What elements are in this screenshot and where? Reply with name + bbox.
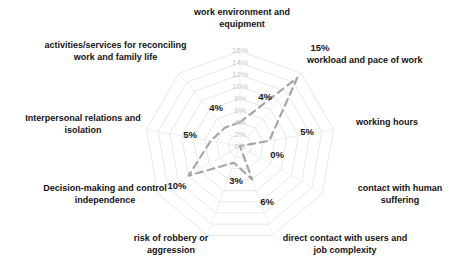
value-label-robbery: 3%	[229, 175, 243, 186]
category-label-human-suffering: contact with human suffering	[340, 183, 460, 206]
category-label-direct-contact: direct contact with users and job comple…	[281, 233, 409, 256]
radial-tick-0: 0%	[234, 142, 246, 151]
radial-tick-16: 16%	[232, 46, 248, 55]
value-label-reconciling: 4%	[209, 102, 223, 113]
value-label-workload: 15%	[310, 42, 330, 53]
radial-tick-2: 2%	[234, 130, 246, 139]
radial-tick-4: 4%	[234, 118, 246, 127]
series-polygon	[189, 78, 298, 180]
category-label-decision-making: Decision-making and control independence	[40, 183, 170, 206]
radial-tick-8: 8%	[234, 94, 246, 103]
radial-tick-14: 14%	[232, 58, 248, 67]
value-label-direct-contact: 6%	[260, 196, 274, 207]
category-label-robbery: risk of robbery or aggression	[114, 233, 228, 256]
value-label-human-suffering: 0%	[270, 149, 284, 160]
category-label-workload: workload and pace of work	[307, 55, 459, 67]
radial-tick-12: 12%	[232, 70, 248, 79]
value-label-decision-making: 10%	[167, 180, 187, 191]
category-label-working-hours: working hours	[356, 117, 460, 129]
category-label-interpersonal: Interpersonal relations and isolation	[8, 113, 158, 136]
value-label-interpersonal: 5%	[183, 129, 197, 140]
value-label-working-hours: 5%	[300, 126, 314, 137]
radial-tick-6: 6%	[234, 106, 246, 115]
category-label-reconciling: activities/services for reconciling work…	[43, 40, 188, 63]
radial-tick-10: 10%	[232, 82, 248, 91]
category-label-work-environment: work environment and equipment	[182, 7, 302, 30]
value-label-work-environment: 4%	[258, 91, 272, 102]
radar-chart: 0% 2% 4% 6% 8% 10% 12% 14% 16% 4% 15% 5%…	[0, 0, 464, 274]
